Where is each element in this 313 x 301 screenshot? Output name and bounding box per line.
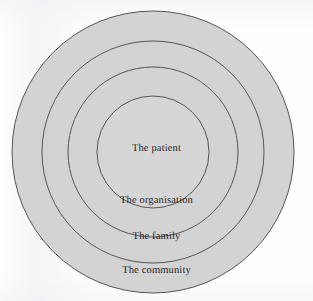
ring-label-community: The community: [0, 265, 313, 276]
concentric-circles-diagram: The patient The organisation The family …: [0, 0, 313, 301]
ring-label-organisation: The organisation: [0, 195, 313, 206]
ring-label-patient: The patient: [0, 143, 313, 154]
ring-label-family: The family: [0, 231, 313, 242]
